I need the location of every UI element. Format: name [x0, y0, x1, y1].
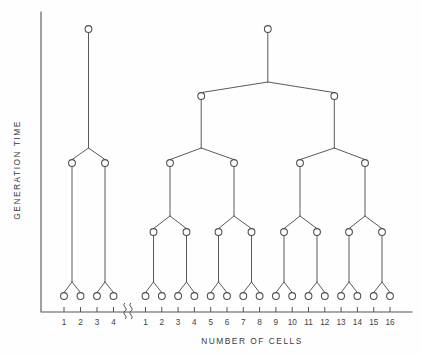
- branch-arm: [284, 216, 300, 229]
- root-cell-node: [85, 26, 92, 33]
- branch-arm: [105, 282, 114, 293]
- branch-arm: [72, 282, 81, 293]
- cell-node: [248, 229, 255, 236]
- right-group-tick-label: 4: [192, 318, 197, 327]
- left-tree: [61, 26, 117, 300]
- left-group-tick-label: 3: [95, 318, 100, 327]
- branch-arm: [146, 282, 154, 293]
- leaf-cell-node: [387, 293, 394, 300]
- branch-arm: [64, 282, 72, 293]
- branch-arm: [284, 282, 292, 293]
- cell-node: [297, 160, 304, 167]
- cell-node: [362, 160, 369, 167]
- left-group-tick-label: 1: [62, 318, 67, 327]
- leaf-cell-node: [110, 293, 117, 300]
- branch-arm: [300, 216, 317, 229]
- axis-break-symbol: [124, 303, 132, 319]
- leaf-cell-node: [224, 293, 231, 300]
- right-tree: [142, 26, 393, 300]
- branch-arm: [365, 216, 382, 229]
- branch-arm: [170, 148, 201, 160]
- leaf-cell-node: [94, 293, 101, 300]
- right-group-tick-label: 1: [143, 318, 148, 327]
- branch-arm: [268, 82, 335, 93]
- right-group-tick-label: 12: [320, 318, 330, 327]
- branch-arm: [201, 148, 234, 160]
- branch-arm: [187, 282, 195, 293]
- cell-node: [346, 229, 353, 236]
- branch-arm: [154, 282, 162, 293]
- lineage-diagram-svg: 123412345678910111213141516 NUMBER OF CE…: [0, 0, 421, 355]
- branch-arm: [97, 282, 105, 293]
- leaf-cell-node: [256, 293, 263, 300]
- axes-group: [41, 12, 412, 312]
- branch-arm: [317, 282, 325, 293]
- branch-arm: [300, 148, 334, 160]
- left-group-tick-label: 2: [78, 318, 83, 327]
- branch-arm: [374, 282, 382, 293]
- cell-node: [69, 160, 76, 167]
- branch-arm: [382, 282, 390, 293]
- cell-node: [314, 229, 321, 236]
- cell-node: [215, 229, 222, 236]
- axis-break-squiggle-0: [124, 303, 126, 319]
- branch-arm: [89, 148, 106, 160]
- branch-arm: [201, 82, 268, 93]
- leaf-cell-node: [289, 293, 296, 300]
- leaf-cell-node: [142, 293, 149, 300]
- figure-canvas: 123412345678910111213141516 NUMBER OF CE…: [0, 0, 421, 355]
- lineage-trees-group: [61, 26, 394, 300]
- axis-tick-labels-group: 123412345678910111213141516: [62, 318, 395, 327]
- axis-break-squiggle-1: [130, 303, 132, 319]
- leaf-cell-node: [191, 293, 198, 300]
- right-group-tick-label: 16: [385, 318, 395, 327]
- leaf-cell-node: [207, 293, 214, 300]
- right-group-tick-label: 3: [176, 318, 181, 327]
- right-group-tick-label: 11: [304, 318, 313, 327]
- cell-node: [183, 229, 190, 236]
- leaf-cell-node: [273, 293, 280, 300]
- right-group-tick-label: 13: [337, 318, 347, 327]
- branch-arm: [243, 282, 251, 293]
- branch-arm: [349, 216, 365, 229]
- right-group-tick-label: 6: [225, 318, 230, 327]
- leaf-cell-node: [321, 293, 328, 300]
- axis-lines: [41, 12, 412, 312]
- cell-node: [331, 93, 338, 100]
- branch-arm: [219, 282, 228, 293]
- cell-node: [150, 229, 157, 236]
- branch-arm: [349, 282, 357, 293]
- leaf-cell-node: [240, 293, 247, 300]
- cell-node: [281, 229, 288, 236]
- branch-arm: [252, 282, 260, 293]
- branch-arm: [170, 216, 187, 229]
- leaf-cell-node: [175, 293, 182, 300]
- right-group-tick-label: 5: [208, 318, 213, 327]
- leaf-cell-node: [158, 293, 165, 300]
- branch-arm: [211, 282, 219, 293]
- branch-arm: [309, 282, 318, 293]
- left-group-tick-label: 4: [111, 318, 116, 327]
- y-axis-title: GENERATION TIME: [12, 120, 22, 219]
- leaf-cell-node: [370, 293, 377, 300]
- cell-node: [231, 160, 238, 167]
- branch-arm: [234, 216, 252, 229]
- right-group-tick-label: 10: [288, 318, 298, 327]
- cell-node: [379, 229, 386, 236]
- right-group-tick-label: 7: [241, 318, 246, 327]
- branch-arm: [341, 282, 349, 293]
- leaf-cell-node: [77, 293, 84, 300]
- branch-arm: [334, 148, 365, 160]
- branch-arm: [72, 148, 89, 160]
- root-cell-node: [264, 26, 271, 33]
- axis-ticks-group: [64, 307, 390, 312]
- right-group-tick-label: 15: [369, 318, 379, 327]
- right-group-tick-label: 2: [160, 318, 165, 327]
- right-group-tick-label: 14: [353, 318, 363, 327]
- right-group-tick-label: 8: [257, 318, 262, 327]
- branch-arm: [154, 216, 171, 229]
- branch-arm: [178, 282, 186, 293]
- leaf-cell-node: [338, 293, 345, 300]
- cell-node: [167, 160, 174, 167]
- right-group-tick-label: 9: [274, 318, 279, 327]
